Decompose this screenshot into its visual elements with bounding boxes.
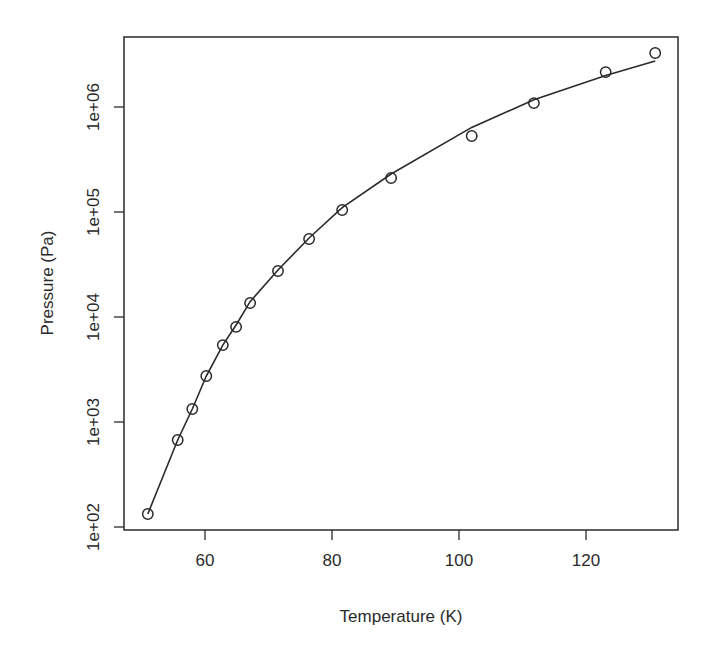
y-tick-label: 1e+03 xyxy=(84,398,103,446)
y-tick-label: 1e+04 xyxy=(84,293,103,341)
y-tick-label: 1e+02 xyxy=(84,503,103,551)
vapor-pressure-chart: 6080100120 1e+021e+031e+041e+051e+06 Tem… xyxy=(0,0,714,652)
x-tick-label: 120 xyxy=(572,551,600,570)
data-point-marker xyxy=(650,48,660,58)
data-point-marker xyxy=(231,322,241,332)
x-tick-label: 60 xyxy=(196,551,215,570)
x-axis-title: Temperature (K) xyxy=(340,607,463,626)
data-points xyxy=(143,48,661,519)
fitted-curve xyxy=(148,61,655,514)
x-tick-label: 100 xyxy=(445,551,473,570)
data-point-marker xyxy=(467,131,477,141)
y-axis: 1e+021e+031e+041e+051e+06 xyxy=(84,83,124,551)
x-axis: 6080100120 xyxy=(196,530,601,570)
plot-frame xyxy=(124,37,678,530)
x-tick-label: 80 xyxy=(323,551,342,570)
y-axis-title: Pressure (Pa) xyxy=(38,231,57,336)
y-tick-label: 1e+06 xyxy=(84,83,103,131)
y-tick-label: 1e+05 xyxy=(84,188,103,236)
